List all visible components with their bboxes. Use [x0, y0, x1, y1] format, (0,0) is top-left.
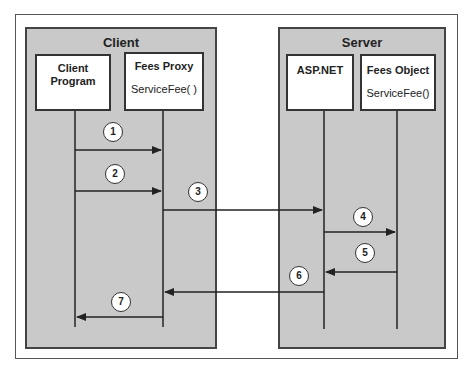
step-1-badge: 1 — [103, 122, 123, 142]
step-3-badge: 3 — [188, 182, 208, 202]
step-2-badge: 2 — [105, 164, 125, 184]
step-7-badge: 7 — [111, 292, 131, 312]
arrows-layer — [0, 0, 475, 377]
step-4-badge: 4 — [353, 207, 373, 227]
step-6-badge: 6 — [289, 266, 309, 286]
step-5-badge: 5 — [355, 243, 375, 263]
